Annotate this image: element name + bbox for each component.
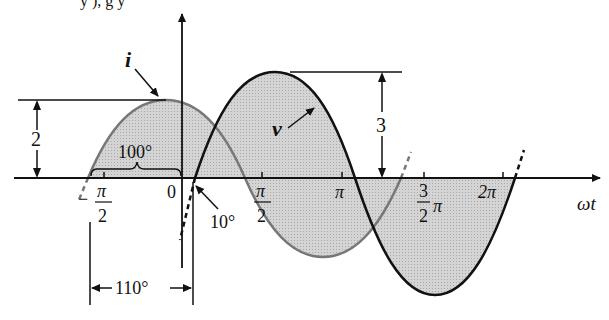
phase-i-label: 100° (118, 142, 152, 162)
tick-three-half-den: 2 (419, 206, 428, 226)
amp-v-label: 3 (376, 114, 386, 136)
arrowhead-icon (378, 168, 386, 178)
phase-diff-label: 110° (115, 278, 149, 298)
tick-half-pi-den: 2 (257, 206, 266, 226)
v-label: v (272, 116, 282, 141)
tick-neg-sign: − (78, 189, 88, 209)
arrowhead-icon (33, 100, 41, 110)
phase-v-label: 10° (210, 212, 235, 232)
tick-three-half-pi: π (433, 196, 443, 216)
phase-diagram: y ), g y − π 2 0 π 2 π 3 2 π 2π ωt (0, 0, 609, 320)
tick-zero: 0 (167, 182, 176, 202)
header-fragment: y ), g y (80, 0, 125, 10)
tick-half-pi-num: π (256, 181, 266, 201)
amp-i-label: 2 (31, 128, 41, 150)
v-dashed-right (515, 150, 524, 178)
tick-two-pi: 2π (478, 182, 497, 202)
tick-three-half-num: 3 (419, 181, 428, 201)
arrowhead-icon (33, 168, 41, 178)
axis-label-wt: ωt (577, 193, 596, 214)
i-label: i (125, 47, 132, 72)
arrowhead-icon (378, 72, 386, 82)
tick-neg-half-pi-num: π (97, 181, 107, 201)
phase-v-pointer (196, 186, 218, 209)
i-pointer (135, 69, 158, 96)
i-dashed-right (401, 152, 411, 178)
tick-pi: π (335, 182, 345, 202)
tick-neg-half-pi-den: 2 (98, 206, 107, 226)
